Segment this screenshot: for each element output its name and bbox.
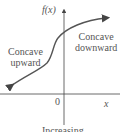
concave-upward-line2: upward [8, 57, 43, 68]
x-axis-label: x [104, 98, 108, 109]
caption: Increasing [42, 125, 84, 132]
concave-downward-line1: Concave [75, 31, 117, 42]
y-axis-label: f(x) [42, 4, 56, 15]
concave-downward-label: Concave downward [75, 31, 117, 53]
concave-downward-line2: downward [75, 42, 117, 53]
concave-upward-line1: Concave [8, 46, 43, 57]
concave-upward-label: Concave upward [8, 46, 43, 68]
origin-label: 0 [55, 96, 60, 107]
